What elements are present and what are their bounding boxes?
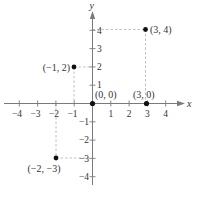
point-m1-2 bbox=[72, 65, 77, 70]
x-tick-labels: −4 −3 −2 −1 1 2 3 4 bbox=[12, 109, 168, 119]
y-tick-label: 3 bbox=[97, 44, 102, 54]
x-tick-label: 4 bbox=[163, 109, 168, 119]
x-tick-label: −1 bbox=[67, 109, 77, 119]
point-0-0 bbox=[90, 101, 95, 106]
y-tick-label: −4 bbox=[79, 172, 89, 182]
y-tick-label: −1 bbox=[79, 117, 89, 127]
x-tick-label: 3 bbox=[145, 109, 150, 119]
label-3-0: (3, 0) bbox=[133, 89, 155, 101]
y-axis-arrow-icon bbox=[90, 11, 95, 19]
y-tick-label: −3 bbox=[79, 154, 89, 164]
point-3-0 bbox=[144, 101, 149, 106]
y-tick-label: 4 bbox=[97, 26, 102, 36]
point-m2-m3 bbox=[54, 156, 59, 161]
label-m1-2: (−1, 2) bbox=[43, 62, 70, 74]
label-m2-m3: (−2, −3) bbox=[28, 163, 61, 175]
x-tick-label: −4 bbox=[12, 109, 22, 119]
x-tick-label: −3 bbox=[30, 109, 40, 119]
point-3-4 bbox=[143, 27, 148, 32]
y-tick-labels-positive: 4 3 2 1 bbox=[97, 26, 102, 91]
x-tick-label: −2 bbox=[49, 109, 59, 119]
x-axis-label: x bbox=[186, 98, 192, 109]
x-tick-label: 2 bbox=[127, 109, 132, 119]
label-0-0: (0, 0) bbox=[95, 89, 117, 101]
y-axis-label: y bbox=[89, 0, 95, 11]
y-tick-labels-negative: −1 −2 −3 −4 bbox=[79, 117, 89, 182]
x-axis-arrow-icon bbox=[177, 101, 185, 106]
y-tick-label: −2 bbox=[79, 135, 89, 145]
x-tick-label: 1 bbox=[108, 109, 113, 119]
coordinate-plane: −4 −3 −2 −1 1 2 3 4 4 3 2 1 −1 −2 −3 −4 … bbox=[0, 0, 197, 199]
y-tick-label: 2 bbox=[97, 62, 102, 72]
axes bbox=[4, 16, 180, 185]
label-3-4: (3, 4) bbox=[150, 24, 172, 36]
